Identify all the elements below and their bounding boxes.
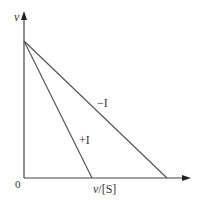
- eadie-hofstee-diagram: v 0 v/[S] −I +I: [0, 0, 197, 200]
- y-axis-label: v: [14, 10, 20, 24]
- x-axis-label: v/[S]: [93, 182, 116, 196]
- origin-label: 0: [15, 178, 21, 190]
- x-axis-arrow-icon: [182, 175, 191, 181]
- label-plus-inhibitor: +I: [79, 133, 90, 147]
- line-minus-inhibitor: [24, 41, 167, 178]
- y-axis-arrow-icon: [21, 11, 27, 20]
- x-axis-label-rest: /[S]: [98, 182, 116, 196]
- label-minus-inhibitor: −I: [97, 96, 108, 110]
- line-plus-inhibitor: [24, 41, 92, 178]
